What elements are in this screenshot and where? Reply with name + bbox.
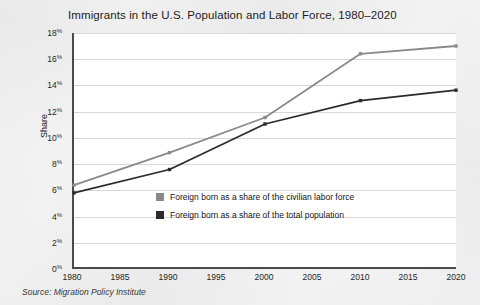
data-point-marker — [263, 122, 266, 125]
x-tick-label: 1980 — [63, 272, 82, 282]
legend-swatch-total-population — [156, 211, 164, 219]
data-point-marker — [168, 151, 171, 154]
data-point-marker — [454, 89, 457, 92]
series-line-0 — [74, 46, 456, 185]
x-tick-label: 2010 — [351, 272, 370, 282]
y-tick-label: 18% — [47, 28, 62, 39]
chart-legend: Foreign born as a share of the civilian … — [156, 188, 378, 224]
x-tick-label: 2000 — [255, 272, 274, 282]
x-tick-label: 1995 — [207, 272, 226, 282]
data-point-marker — [359, 99, 362, 102]
x-axis-tick-labels: 198019851990199520002005201020152020 — [72, 272, 456, 286]
x-tick-label: 1985 — [111, 272, 130, 282]
y-tick-label: 8% — [52, 159, 62, 170]
y-tick-label: 6% — [52, 185, 62, 196]
legend-item-labor-force: Foreign born as a share of the civilian … — [156, 188, 378, 206]
x-tick-label: 2005 — [303, 272, 322, 282]
data-point-marker — [454, 44, 457, 47]
series-lines — [74, 33, 456, 267]
y-tick-label: 16% — [47, 54, 62, 65]
data-point-marker — [72, 191, 75, 194]
plot-area — [72, 33, 456, 269]
data-point-marker — [263, 116, 266, 119]
legend-label-labor-force: Foreign born as a share of the civilian … — [170, 192, 354, 202]
source-note: Source: Migration Policy Institute — [22, 287, 146, 297]
chart-page: Immigrants in the U.S. Population and La… — [0, 0, 480, 305]
x-tick-label: 2020 — [447, 272, 466, 282]
x-tick-label: 1990 — [159, 272, 178, 282]
data-point-marker — [72, 183, 75, 186]
data-point-marker — [359, 52, 362, 55]
y-tick-label: 2% — [52, 237, 62, 248]
legend-swatch-labor-force — [156, 193, 164, 201]
y-tick-label: 12% — [47, 106, 62, 117]
chart-title: Immigrants in the U.S. Population and La… — [68, 9, 397, 21]
y-axis-tick-labels: 0%2%4%6%8%10%12%14%16%18% — [0, 33, 68, 269]
legend-item-total-population: Foreign born as a share of the total pop… — [156, 206, 378, 224]
legend-label-total-population: Foreign born as a share of the total pop… — [170, 210, 344, 220]
data-point-marker — [168, 168, 171, 171]
y-tick-label: 14% — [47, 80, 62, 91]
y-tick-label: 10% — [47, 132, 62, 143]
y-tick-label: 4% — [52, 211, 62, 222]
x-tick-label: 2015 — [399, 272, 418, 282]
series-line-1 — [74, 90, 456, 193]
y-tick-label: 0% — [52, 264, 62, 275]
